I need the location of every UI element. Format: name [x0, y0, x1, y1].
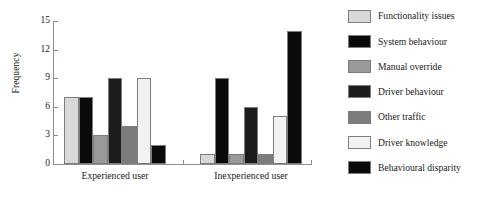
legend-swatch	[348, 111, 371, 124]
y-tick-label: 12	[24, 45, 50, 55]
legend-label: Driver knowledge	[378, 138, 448, 148]
y-tick-label: 6	[24, 102, 50, 112]
bar	[108, 78, 123, 164]
bar	[200, 154, 215, 164]
bar	[258, 154, 273, 164]
bars-layer	[54, 21, 312, 164]
x-group-label: Inexperienced user	[191, 170, 311, 181]
legend-label: Driver behaviour	[378, 87, 444, 97]
x-group-label: Experienced user	[55, 170, 175, 181]
y-tick-label-wrap: 15	[22, 16, 50, 26]
y-axis-title: Frequency	[11, 33, 21, 113]
bar	[273, 116, 288, 164]
legend-item: Driver behaviour	[348, 85, 444, 99]
chart-legend: Functionality issuesSystem behaviourManu…	[348, 9, 479, 194]
legend-item: Other traffic	[348, 110, 426, 124]
bar	[64, 97, 79, 164]
bar	[229, 154, 244, 164]
bar	[287, 31, 302, 164]
bar-chart-figure: Frequency 03691215 Experienced userInexp…	[0, 0, 479, 199]
y-tick-label: 9	[24, 73, 50, 83]
x-axis-line	[53, 164, 311, 165]
plot-area: Frequency 03691215 Experienced userInexp…	[0, 0, 340, 199]
y-tick-label-wrap: 0	[22, 159, 50, 169]
legend-label: Other traffic	[378, 112, 426, 122]
y-tick-label: 15	[24, 16, 50, 26]
legend-swatch	[348, 85, 371, 98]
legend-label: Behavioural disparity	[378, 163, 461, 173]
y-tick-label: 3	[24, 130, 50, 140]
bar	[122, 126, 137, 164]
legend-label: Functionality issues	[378, 11, 454, 21]
legend-item: Functionality issues	[348, 9, 454, 23]
y-tick-label-wrap: 3	[22, 130, 50, 140]
legend-item: Behavioural disparity	[348, 161, 461, 175]
y-tick-mark	[54, 164, 58, 165]
legend-label: Manual override	[378, 62, 442, 72]
legend-swatch	[348, 60, 371, 73]
y-tick-label: 0	[24, 159, 50, 169]
legend-item: Driver knowledge	[348, 136, 448, 150]
bar	[137, 78, 152, 164]
y-tick-label-wrap: 12	[22, 45, 50, 55]
bar	[79, 97, 94, 164]
legend-swatch	[348, 136, 371, 149]
legend-swatch	[348, 35, 371, 48]
bar	[215, 78, 230, 164]
y-tick-label-wrap: 9	[22, 73, 50, 83]
legend-swatch	[348, 10, 371, 23]
legend-label: System behaviour	[378, 37, 447, 47]
y-tick-label-wrap: 6	[22, 102, 50, 112]
legend-item: System behaviour	[348, 34, 447, 48]
legend-item: Manual override	[348, 60, 442, 74]
bar	[244, 107, 259, 164]
bar	[151, 145, 166, 164]
legend-swatch	[348, 161, 371, 174]
bar	[93, 135, 108, 164]
